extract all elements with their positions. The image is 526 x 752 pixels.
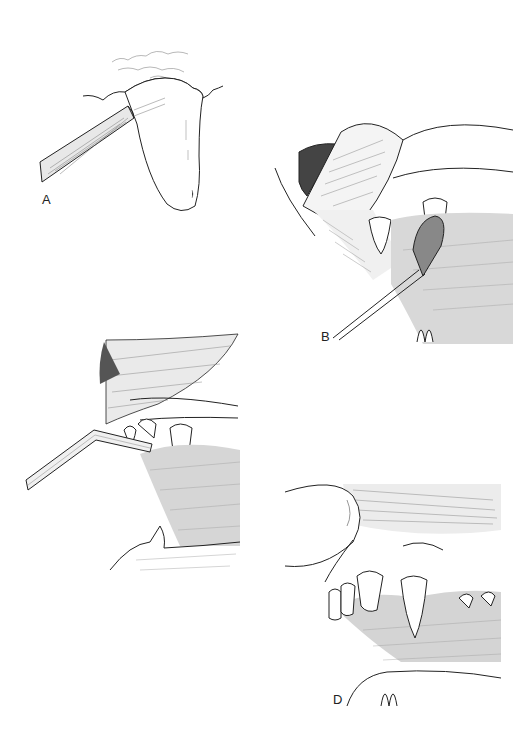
illustration-instrument-teeth: [0, 320, 263, 600]
illustration-swab-canine: [263, 80, 526, 350]
illustration-probe-tooth: [0, 0, 263, 250]
panel-c: C: [0, 320, 263, 600]
panel-b: B: [263, 80, 526, 350]
panel-label-a: A: [42, 193, 51, 206]
panel-d: D: [263, 460, 526, 752]
illustration-thumb-retracting-lip: [263, 460, 526, 752]
panel-label-b: B: [321, 330, 330, 343]
panel-a: A: [0, 0, 263, 250]
panel-label-d: D: [333, 693, 342, 706]
